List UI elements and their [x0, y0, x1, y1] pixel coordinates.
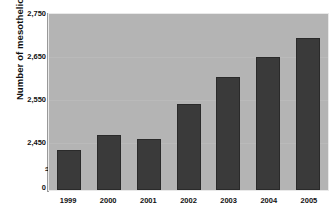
bar[interactable] [57, 150, 81, 190]
x-tick-label: 1999 [48, 196, 88, 210]
bar-column [129, 14, 169, 190]
plot-area [48, 13, 329, 191]
bar[interactable] [177, 104, 201, 190]
bar-chart-figure: Number of mesothelioma deaths 2,750 2,65… [0, 0, 335, 223]
y-tick-label: 2,750 [2, 10, 46, 18]
bar-column [208, 14, 248, 190]
bar[interactable] [97, 135, 121, 190]
y-tick-label: 2,550 [2, 96, 46, 104]
bar-column [288, 14, 328, 190]
y-tick-label: 2,650 [2, 53, 46, 61]
x-tick-label: 2004 [249, 196, 289, 210]
x-tick-label: 2005 [289, 196, 329, 210]
x-axis-tick-labels: 1999 2000 2001 2002 2003 2004 2005 [48, 196, 329, 210]
bar-column [89, 14, 129, 190]
x-tick-label: 2001 [128, 196, 168, 210]
y-tick-label: 2,450 [2, 139, 46, 147]
bar-column [248, 14, 288, 190]
x-tick-label: 2002 [168, 196, 208, 210]
y-axis-tick-labels: 2,750 2,650 2,550 2,450 0 [0, 0, 46, 223]
bar[interactable] [256, 57, 280, 190]
bar-column [49, 14, 89, 190]
bar-column [169, 14, 209, 190]
x-tick-label: 2003 [209, 196, 249, 210]
bar[interactable] [137, 139, 161, 190]
y-tick-label: 0 [2, 184, 46, 192]
x-tick-label: 2000 [88, 196, 128, 210]
bar[interactable] [216, 77, 240, 191]
bar-series [49, 14, 328, 190]
bar[interactable] [296, 38, 320, 190]
